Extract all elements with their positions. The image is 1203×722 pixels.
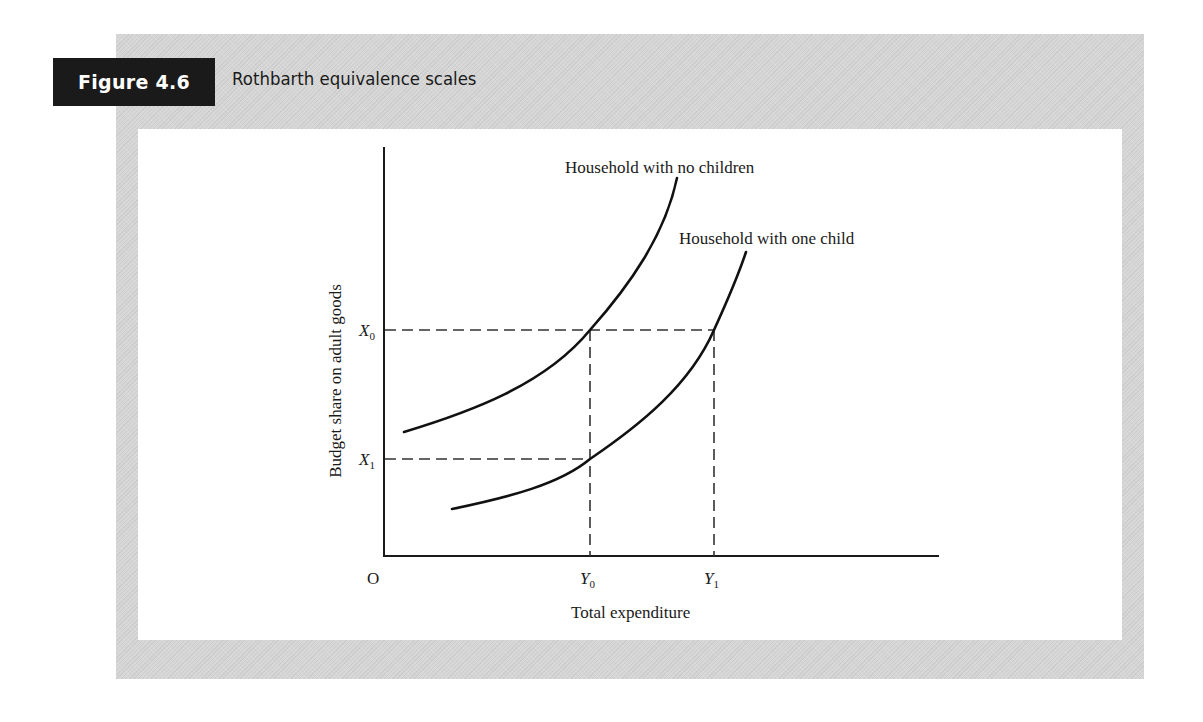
curve-one-child — [452, 252, 746, 509]
y-axis-title: Budget share on adult goods — [326, 284, 345, 478]
x-tick-y0: Y0 — [580, 569, 595, 590]
curve-label-no-children: Household with no children — [565, 158, 755, 177]
curve-no-children — [404, 178, 677, 432]
y-tick-x0: X0 — [358, 321, 375, 342]
origin-label: O — [367, 569, 379, 588]
chart-svg: Household with no children Household wit… — [0, 0, 1203, 722]
y-tick-x1: X1 — [358, 450, 375, 471]
x-axis-title: Total expenditure — [571, 603, 690, 622]
x-tick-y1: Y1 — [704, 569, 719, 590]
curve-label-one-child: Household with one child — [679, 229, 855, 248]
